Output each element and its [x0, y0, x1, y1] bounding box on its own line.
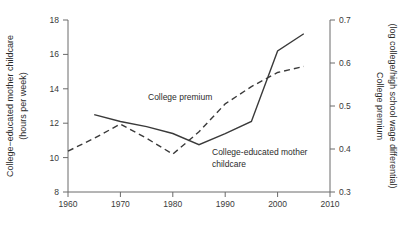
series-line-childcare — [94, 34, 304, 145]
x-tick-label-1970: 1970 — [111, 199, 130, 209]
bottom-axis: 1960 1970 1980 1990 2000 2010 — [59, 192, 340, 209]
line-chart: 18 16 14 12 10 8 1960 1970 1980 1990 200… — [0, 0, 402, 231]
annotation-childcare-line1: College-educated mother — [212, 147, 308, 157]
right-tick-label-0-7: 0.7 — [339, 15, 351, 25]
x-tick-label-1980: 1980 — [163, 199, 182, 209]
left-axis: 18 16 14 12 10 8 — [50, 15, 68, 197]
x-tick-label-1960: 1960 — [59, 199, 78, 209]
right-tick-label-0-3: 0.3 — [339, 187, 351, 197]
left-tick-label-10: 10 — [50, 153, 60, 163]
annotation-childcare-line2: childcare — [212, 159, 246, 169]
right-tick-label-0-5: 0.5 — [339, 101, 351, 111]
x-tick-label-2010: 2010 — [321, 199, 340, 209]
right-tick-label-0-6: 0.6 — [339, 58, 351, 68]
left-tick-label-16: 16 — [50, 49, 60, 59]
right-axis: 0.7 0.6 0.5 0.4 0.3 — [330, 15, 351, 197]
left-tick-label-18: 18 — [50, 15, 60, 25]
left-tick-label-14: 14 — [50, 84, 60, 94]
right-axis-title-line1: College premium — [375, 72, 385, 140]
left-axis-title-line1: College−educated mother childcare — [5, 35, 15, 177]
chart-container: 18 16 14 12 10 8 1960 1970 1980 1990 200… — [0, 0, 402, 231]
annotation-college-premium: College premium — [148, 92, 212, 102]
left-tick-label-8: 8 — [54, 187, 59, 197]
left-tick-label-12: 12 — [50, 118, 60, 128]
series-line-college-premium — [68, 66, 304, 154]
x-tick-label-2000: 2000 — [268, 199, 287, 209]
right-tick-label-0-4: 0.4 — [339, 144, 351, 154]
right-axis-title-line2: (log college/high school wage differenti… — [388, 24, 398, 189]
x-tick-label-1990: 1990 — [216, 199, 235, 209]
left-axis-title-line2: (hours per week) — [18, 72, 28, 140]
